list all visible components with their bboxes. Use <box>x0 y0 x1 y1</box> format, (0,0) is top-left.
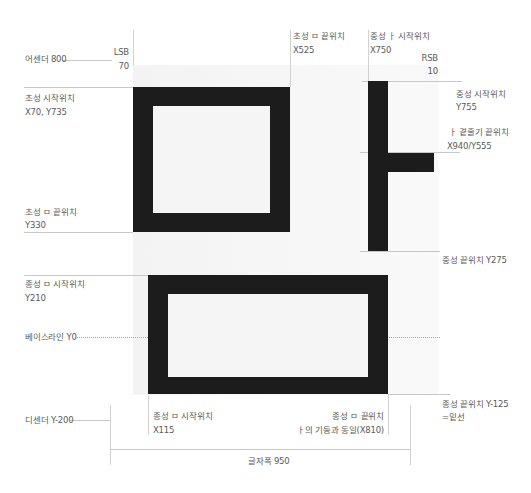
lsb-title: LSB <box>100 46 129 59</box>
final-end-y-title: 종성 끝위치 Y-125 <box>442 398 508 411</box>
initial-end-x-guide-line <box>290 30 291 87</box>
descender-leader-line <box>70 420 110 421</box>
final-start-x-value: X115 <box>153 424 174 437</box>
final-end-x-title: 종성 ㅁ 끝위치 <box>280 410 384 423</box>
medial-start-x-guide-line <box>368 30 369 81</box>
advance-left-tick <box>110 405 111 465</box>
medial-end-guide-line <box>360 251 440 252</box>
final-end-y-value: =밑선 <box>442 411 465 424</box>
final-start-y-guide-line <box>24 275 148 276</box>
advance-right-tick <box>410 405 411 465</box>
advance-width-line <box>110 449 410 450</box>
advance-width-label: 글자폭 950 <box>248 455 290 468</box>
medial-end-label: 중성 끝위치 Y275 <box>442 254 507 267</box>
final-end-x-value: ㅏ의 기둥과 동일(X810) <box>270 424 384 437</box>
final-start-y-title: 종성 ㅁ 시작위치 <box>25 278 85 291</box>
initial-end-y-title: 초성 ㅁ 끝위치 <box>25 206 77 219</box>
descender-label: 디센더 Y-200 <box>25 414 73 427</box>
medial-start-y-value: Y755 <box>456 101 477 114</box>
rsb-value: 10 <box>400 65 438 78</box>
medial-start-x-title: 중성 ㅏ 시작위치 <box>370 30 430 43</box>
medial-a-branch-stroke <box>388 153 434 172</box>
lsb-guide-line <box>133 30 134 65</box>
final-end-y-guide-line <box>388 394 450 395</box>
medial-start-y-title: 중성 시작위치 <box>456 88 505 101</box>
medial-start-x-value: X750 <box>370 44 391 57</box>
medial-a-vertical-stroke <box>368 81 388 251</box>
initial-mieum-counter <box>153 106 270 213</box>
final-start-x-guide-line <box>148 395 149 435</box>
initial-end-x-value: X525 <box>293 44 314 57</box>
initial-end-x-title: 초성 ㅁ 끝위치 <box>293 30 345 43</box>
rsb-title: RSB <box>400 52 438 65</box>
baseline-label: 베이스라인 Y0 <box>25 331 77 344</box>
lsb-value: 70 <box>100 60 129 73</box>
initial-end-y-guide-line <box>24 232 133 233</box>
initial-end-y-value: Y330 <box>25 219 46 232</box>
ascender-label: 어센더 800 <box>25 53 67 66</box>
final-start-y-value: Y210 <box>25 292 46 305</box>
initial-start-title: 초성 시작위치 <box>25 92 74 105</box>
medial-branch-value: X940/Y555 <box>447 140 492 153</box>
initial-start-y-guide-line <box>24 87 133 88</box>
final-end-x-guide-line <box>388 395 389 435</box>
final-mieum-counter <box>168 294 368 377</box>
glyph-construction-diagram: 어센더 800 LSB 70 초성 ㅁ 끝위치 X525 중성 ㅏ 시작위치 X… <box>0 0 531 493</box>
final-start-x-title: 종성 ㅁ 시작위치 <box>153 410 213 423</box>
initial-start-value: X70, Y735 <box>25 106 67 119</box>
medial-branch-title: ㅏ 곁줄기 끝위치 <box>449 126 509 139</box>
